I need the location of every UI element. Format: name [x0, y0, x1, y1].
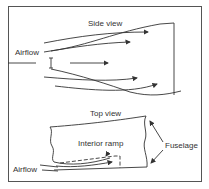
diagram-canvas	[0, 0, 209, 189]
outer-border	[9, 7, 202, 182]
top-view-airflow-label: Airflow	[13, 166, 37, 174]
fuselage-bottom-edge	[54, 167, 147, 170]
side-view-title: Side view	[88, 20, 122, 28]
fuselage-lower-contour	[51, 69, 181, 95]
interior-ramp-label: Interior ramp	[78, 140, 123, 148]
fuselage-label: Fuselage	[165, 142, 198, 150]
side-view-airflow-label: Airflow	[15, 49, 39, 57]
streamline-5	[55, 84, 157, 90]
streamline-1	[44, 32, 148, 43]
streamline-4	[44, 77, 137, 80]
fuselage-pointer-upper	[150, 121, 163, 142]
streamline-2	[44, 42, 130, 52]
side-view-drawing	[8, 23, 181, 95]
fuselage-pointer-lower	[151, 150, 163, 163]
top-view-title: Top view	[90, 110, 121, 118]
diagram-frame: Side view Airflow Top view Interior ramp…	[8, 6, 202, 181]
